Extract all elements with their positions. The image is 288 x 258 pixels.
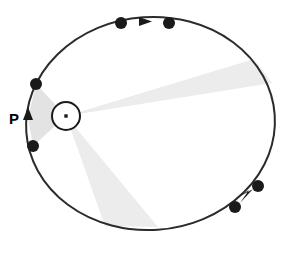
direction-arrow-top [139,17,152,26]
label-group: P [9,110,19,127]
sector-aphelion-right [66,59,272,116]
planet-top-left [115,17,127,29]
orbit-diagram-svg: P [0,0,288,258]
sun-center-dot [64,114,67,117]
kepler-orbit-figure: P [0,0,288,258]
sun-group [52,102,80,130]
planet-left-upper [30,78,42,90]
planet-right-lower [229,201,241,213]
planet-left-lower [27,140,39,152]
perihelion-label: P [9,110,19,127]
sector-lower [66,116,158,227]
planet-right-upper [252,180,264,192]
planet-top-right [163,17,175,29]
